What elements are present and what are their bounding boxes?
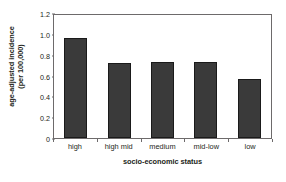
x-axis-tick-label: high <box>53 142 97 151</box>
bar <box>64 38 87 138</box>
bar-slot <box>141 15 184 138</box>
bar <box>238 79 261 138</box>
x-axis-tick-label: medium <box>141 142 185 151</box>
x-axis-tick-labels: highhigh midmediummid-lowlow <box>53 142 272 151</box>
y-axis-tick-label: 0.2 <box>24 114 50 123</box>
x-axis-title: socio-economic status <box>53 157 272 166</box>
x-axis-tick-label: low <box>228 142 272 151</box>
y-axis-tick-label: 0.8 <box>24 51 50 60</box>
y-axis-tick-label: 0.6 <box>24 72 50 81</box>
plot-area <box>53 14 272 139</box>
bar <box>151 62 174 138</box>
x-axis-tick-mark <box>272 139 273 142</box>
y-axis-ticks: 00.20.40.60.81.01.2 <box>24 0 50 182</box>
bar-slot <box>54 15 97 138</box>
y-axis-tick-label: 1.0 <box>24 30 50 39</box>
bar-slot <box>97 15 140 138</box>
y-axis-tick-label: 0 <box>24 135 50 144</box>
bar <box>194 62 217 138</box>
bar-slot <box>184 15 227 138</box>
y-axis-tick-label: 0.4 <box>24 93 50 102</box>
x-axis-tick-label: mid-low <box>184 142 228 151</box>
bar-series <box>54 15 271 138</box>
bar-chart-figure: age-adjusted incidence (per 100,000) 00.… <box>0 0 286 182</box>
y-axis-tick-label: 1.2 <box>24 10 50 19</box>
bar-slot <box>228 15 271 138</box>
bar <box>108 63 131 138</box>
x-axis-tick-label: high mid <box>97 142 141 151</box>
